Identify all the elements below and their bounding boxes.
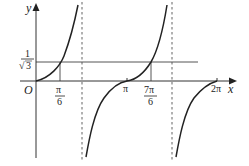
y-axis-arrow-icon <box>33 3 40 11</box>
one-over-root3-numerator: 1 <box>25 48 30 59</box>
2pi-label: 2π <box>211 83 221 94</box>
pi-over-6-numerator: π <box>56 84 61 95</box>
one-over-root3-denominator: 3 <box>26 60 31 71</box>
7pi-over-6-denominator: 6 <box>148 96 153 107</box>
pi-over-6-denominator: 6 <box>57 96 62 107</box>
one-over-root3-radical: √ <box>19 60 25 71</box>
7pi-over-6-numerator: 7π <box>144 84 154 95</box>
pi-label: π <box>123 83 128 94</box>
y-axis-label: y <box>25 1 32 15</box>
x-axis-label: x <box>227 82 234 96</box>
tan-branch-1 <box>36 5 78 81</box>
tangent-graph: y x O 1 √ 3 π 6 π 7π 6 2π <box>0 0 249 166</box>
origin-label: O <box>24 83 33 97</box>
